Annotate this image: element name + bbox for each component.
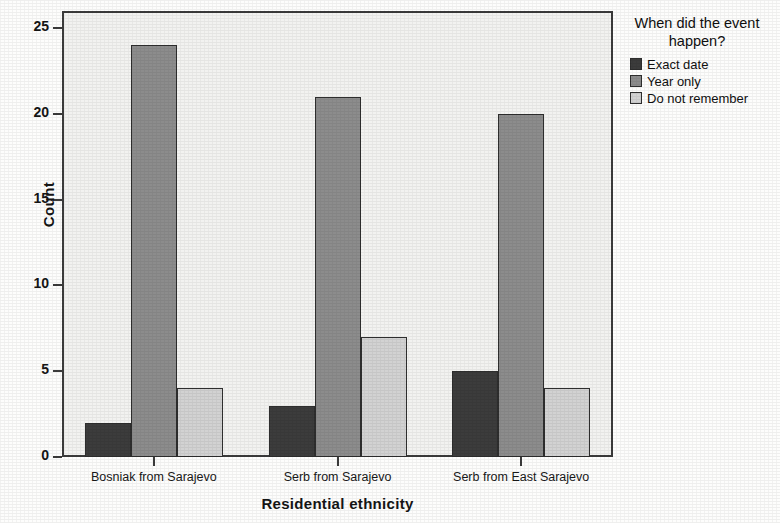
bar	[361, 337, 407, 457]
x-axis-tick-mark	[337, 457, 339, 466]
x-axis-title: Residential ethnicity	[62, 495, 613, 512]
y-axis-title: Count	[40, 145, 57, 265]
x-axis-tick-mark	[153, 457, 155, 466]
legend-items: Exact dateYear onlyDo not remember	[618, 56, 778, 106]
y-axis-tick-mark	[53, 370, 62, 372]
bar	[544, 388, 590, 457]
legend-swatch	[630, 58, 642, 70]
legend-swatch	[630, 92, 642, 104]
legend-item: Do not remember	[630, 90, 778, 106]
chart-screenshot: 0510152025 Count Bosniak from SarajevoSe…	[0, 0, 780, 523]
legend-label: Do not remember	[647, 91, 748, 106]
y-axis-tick-mark	[53, 27, 62, 29]
legend-swatch	[630, 75, 642, 87]
legend-title: When did the event happen?	[618, 14, 776, 50]
bar	[452, 371, 498, 457]
y-axis-tick-mark	[53, 113, 62, 115]
y-axis-tick-mark	[53, 456, 62, 458]
x-axis-tick-label: Serb from East Sarajevo	[453, 470, 589, 484]
y-axis-tick-mark	[53, 284, 62, 286]
bar	[315, 97, 361, 457]
x-axis-tick-label: Bosniak from Sarajevo	[91, 470, 217, 484]
bar	[177, 388, 223, 457]
bar	[269, 406, 315, 457]
y-axis-tick-label: 25	[33, 18, 49, 34]
y-axis-tick-label: 10	[33, 275, 49, 291]
x-axis-tick-mark	[520, 457, 522, 466]
y-axis-tick-label: 0	[41, 447, 49, 463]
bar	[498, 114, 544, 457]
y-axis-tick-label: 5	[41, 361, 49, 377]
x-axis-tick-label: Serb from Sarajevo	[284, 470, 392, 484]
bar	[85, 423, 131, 457]
legend-label: Year only	[647, 74, 701, 89]
y-axis-tick-label: 20	[33, 104, 49, 120]
legend-title-line-1: When did the event	[618, 14, 776, 32]
legend-title-line-2: happen?	[618, 32, 776, 50]
legend-item: Year only	[630, 73, 778, 89]
legend-item: Exact date	[630, 56, 778, 72]
bar	[131, 45, 177, 457]
legend: When did the event happen? Exact dateYea…	[618, 14, 778, 107]
legend-label: Exact date	[647, 57, 708, 72]
